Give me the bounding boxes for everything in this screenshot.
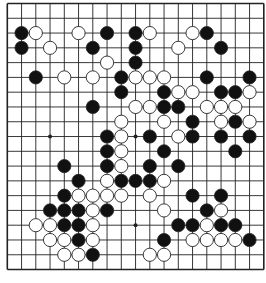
white-stone [115, 115, 128, 128]
black-stone [129, 41, 142, 54]
white-stone [115, 159, 128, 172]
white-stone [100, 174, 113, 187]
black-stone [186, 130, 199, 143]
star-point [134, 135, 138, 139]
white-stone [143, 100, 156, 113]
white-stone [229, 100, 242, 113]
white-stone [243, 115, 256, 128]
white-stone [214, 233, 227, 246]
white-stone [172, 86, 185, 99]
white-stone [115, 145, 128, 158]
black-stone [229, 86, 242, 99]
white-stone [172, 41, 185, 54]
black-stone [143, 130, 156, 143]
white-stone [143, 26, 156, 39]
black-stone [229, 145, 242, 158]
black-stone [86, 100, 99, 113]
black-stone [72, 174, 85, 187]
black-stone [72, 219, 85, 232]
black-stone [143, 159, 156, 172]
white-stone [129, 71, 142, 84]
black-stone [15, 41, 28, 54]
white-stone [43, 233, 56, 246]
white-stone [157, 248, 170, 261]
black-stone [229, 219, 242, 232]
white-stone [72, 26, 85, 39]
white-stone [58, 71, 71, 84]
white-stone [72, 189, 85, 202]
white-stone [214, 204, 227, 217]
white-stone [100, 189, 113, 202]
black-stone [172, 159, 185, 172]
black-stone [200, 71, 213, 84]
white-stone [143, 189, 156, 202]
black-stone [214, 41, 227, 54]
black-stone [214, 219, 227, 232]
black-stone [86, 248, 99, 261]
white-stone [115, 189, 128, 202]
black-stone [100, 159, 113, 172]
black-stone [186, 219, 199, 232]
black-stone [157, 233, 170, 246]
black-stone [200, 26, 213, 39]
star-point [48, 135, 52, 139]
white-stone [43, 41, 56, 54]
black-stone [186, 115, 199, 128]
black-stone [129, 174, 142, 187]
black-stone [58, 219, 71, 232]
black-stone [214, 86, 227, 99]
white-stone [143, 71, 156, 84]
go-board [0, 0, 266, 272]
white-stone [157, 71, 170, 84]
black-stone [129, 56, 142, 69]
black-stone [100, 145, 113, 158]
white-stone [143, 248, 156, 261]
black-stone [214, 130, 227, 143]
black-stone [115, 174, 128, 187]
black-stone [243, 130, 256, 143]
white-stone [172, 130, 185, 143]
black-stone [86, 41, 99, 54]
black-stone [229, 115, 242, 128]
black-stone [58, 204, 71, 217]
white-stone [200, 100, 213, 113]
white-stone [157, 174, 170, 187]
black-stone [157, 86, 170, 99]
black-stone [243, 71, 256, 84]
black-stone [186, 189, 199, 202]
white-stone [186, 26, 199, 39]
white-stone [129, 100, 142, 113]
black-stone [58, 189, 71, 202]
white-stone [200, 233, 213, 246]
white-stone [214, 100, 227, 113]
black-stone [157, 100, 170, 113]
white-stone [86, 233, 99, 246]
white-stone [86, 219, 99, 232]
white-stone [29, 219, 42, 232]
black-stone [172, 100, 185, 113]
white-stone [86, 71, 99, 84]
black-stone [43, 204, 56, 217]
white-stone [72, 248, 85, 261]
white-stone [186, 86, 199, 99]
black-stone [115, 71, 128, 84]
star-point [134, 223, 138, 227]
white-stone [157, 204, 170, 217]
black-stone [72, 204, 85, 217]
white-stone [86, 189, 99, 202]
black-stone [100, 204, 113, 217]
white-stone [115, 130, 128, 143]
black-stone [129, 26, 142, 39]
black-stone [58, 159, 71, 172]
white-stone [229, 233, 242, 246]
white-stone [200, 219, 213, 232]
white-stone [43, 219, 56, 232]
white-stone [58, 248, 71, 261]
black-stone [157, 145, 170, 158]
white-stone [100, 56, 113, 69]
black-stone [100, 26, 113, 39]
white-stone [58, 233, 71, 246]
white-stone [243, 86, 256, 99]
white-stone [157, 115, 170, 128]
white-stone [86, 204, 99, 217]
